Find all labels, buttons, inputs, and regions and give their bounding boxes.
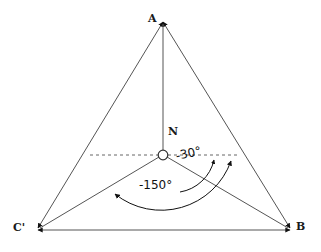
vertex-label-n: N xyxy=(168,126,178,137)
angle-arc-minus-30 xyxy=(180,160,214,192)
edge-a-b xyxy=(163,22,290,228)
geometry-diagram: A B C' N -30° -150° xyxy=(0,0,321,252)
vertex-label-c-prime: C' xyxy=(13,222,25,233)
node-marker-n xyxy=(158,150,168,160)
vertex-label-a: A xyxy=(148,13,157,24)
node-rays xyxy=(40,24,288,228)
vertex-label-b: B xyxy=(296,221,305,232)
angle-arc-minus-150 xyxy=(115,161,231,210)
angle-label-minus-150: -150° xyxy=(139,179,172,191)
outer-triangle xyxy=(38,22,290,230)
edge-a-cprime xyxy=(38,22,163,228)
edge-n-cprime xyxy=(40,157,159,228)
diagram-canvas xyxy=(0,0,321,252)
edge-n-b xyxy=(167,157,288,228)
